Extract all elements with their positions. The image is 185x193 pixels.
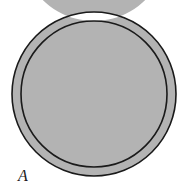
figure-label-a: A bbox=[18, 166, 28, 186]
figure-container: A bbox=[0, 0, 185, 193]
annulus-ring-graphic bbox=[0, 0, 185, 193]
ring-band bbox=[12, 0, 176, 176]
